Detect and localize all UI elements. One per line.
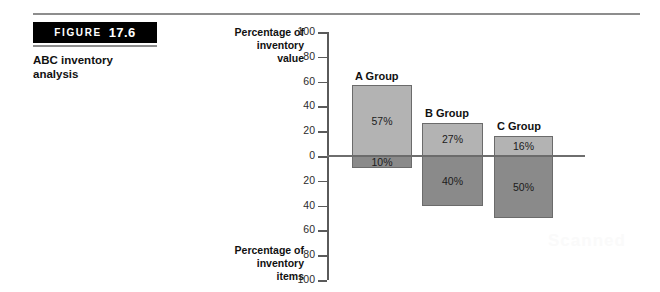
y-axis-tick-0 bbox=[318, 156, 327, 158]
bar-label-b-group: B Group bbox=[425, 107, 469, 119]
y-axis-label-60-bottom: 60 bbox=[289, 223, 315, 235]
y-axis-label-0: 0 bbox=[289, 149, 315, 161]
y-axis-tick-80-bottom bbox=[318, 255, 327, 257]
y-axis-label-20-top: 20 bbox=[289, 124, 315, 136]
y-axis-tick-60-bottom bbox=[318, 230, 327, 232]
y-axis-tick-40-bottom bbox=[318, 206, 327, 208]
bar-b-value-segment: 27% bbox=[422, 123, 483, 157]
y-axis-label-80-top: 80 bbox=[289, 50, 315, 62]
y-axis-tick-100-bottom bbox=[318, 280, 327, 282]
bar-c-items-segment: 50% bbox=[494, 156, 553, 218]
y-axis-tick-20-top bbox=[318, 131, 327, 133]
bar-c-value-segment: 16% bbox=[494, 136, 553, 156]
page-watermark: Scanned bbox=[548, 231, 626, 251]
y-axis-tick-20-bottom bbox=[318, 181, 327, 183]
bar-a-items-segment: 10% bbox=[352, 156, 412, 168]
y-axis-label-40-bottom: 40 bbox=[289, 199, 315, 211]
y-axis-tick-60-top bbox=[318, 82, 327, 84]
y-axis-tick-80-top bbox=[318, 57, 327, 59]
bar-a-value-segment: 57% bbox=[352, 85, 412, 156]
y-axis-label-100-bottom: 100 bbox=[289, 273, 315, 285]
y-axis-label-40-top: 40 bbox=[289, 99, 315, 111]
bar-b-items-segment: 40% bbox=[422, 156, 483, 206]
y-axis-tick-40-top bbox=[318, 106, 327, 108]
y-axis-label-100-top: 100 bbox=[289, 25, 315, 37]
y-axis-label-20-bottom: 20 bbox=[289, 174, 315, 186]
abc-inventory-chart: Percentage of inventory value Percentage… bbox=[0, 0, 660, 292]
bar-label-a-group: A Group bbox=[355, 70, 399, 82]
y-axis-tick-100-top bbox=[318, 32, 327, 34]
y-axis-label-80-bottom: 80 bbox=[289, 248, 315, 260]
bar-label-c-group: C Group bbox=[497, 120, 541, 132]
y-axis-label-60-top: 60 bbox=[289, 75, 315, 87]
